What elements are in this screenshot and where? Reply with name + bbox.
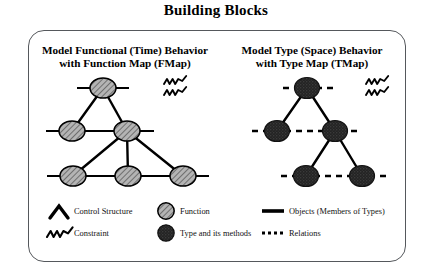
diagram-canvas bbox=[0, 0, 432, 280]
constraint-squiggle bbox=[366, 87, 388, 95]
type-icon bbox=[158, 225, 174, 241]
legend-label-objects: Objects (Members of Types) bbox=[289, 207, 385, 216]
fmap-function-node bbox=[170, 166, 196, 186]
fmap-function-node bbox=[60, 166, 86, 186]
tmap-type-node bbox=[323, 121, 348, 142]
fmap-function-node bbox=[114, 121, 140, 141]
tmap-type-node bbox=[350, 166, 375, 187]
legend-label-function: Function bbox=[180, 207, 210, 216]
tmap-type-node bbox=[295, 78, 320, 99]
control-structure-icon bbox=[50, 206, 68, 218]
fmap-diagram bbox=[46, 76, 209, 186]
fmap-constraint-marks bbox=[164, 76, 186, 95]
fmap-function-node bbox=[59, 121, 85, 141]
constraint-squiggle bbox=[164, 76, 186, 84]
legend-label-control-structure: Control Structure bbox=[74, 207, 132, 216]
tmap-constraint-marks bbox=[366, 76, 388, 95]
figure-building-blocks: Building Blocks Model Functional (Time) … bbox=[0, 0, 432, 280]
constraint-squiggle bbox=[164, 87, 186, 95]
tmap-type-node bbox=[265, 121, 290, 142]
legend-label-type-and-methods: Type and its methods bbox=[180, 229, 251, 238]
tmap-type-node bbox=[294, 166, 319, 187]
fmap-function-node bbox=[115, 166, 141, 186]
legend-label-relations: Relations bbox=[289, 229, 321, 238]
tmap-diagram bbox=[252, 76, 391, 187]
legend-label-constraint: Constraint bbox=[74, 229, 109, 238]
function-icon bbox=[158, 203, 174, 219]
constraint-squiggle bbox=[366, 76, 388, 84]
constraint-icon bbox=[47, 227, 73, 237]
fmap-function-node bbox=[90, 78, 116, 98]
